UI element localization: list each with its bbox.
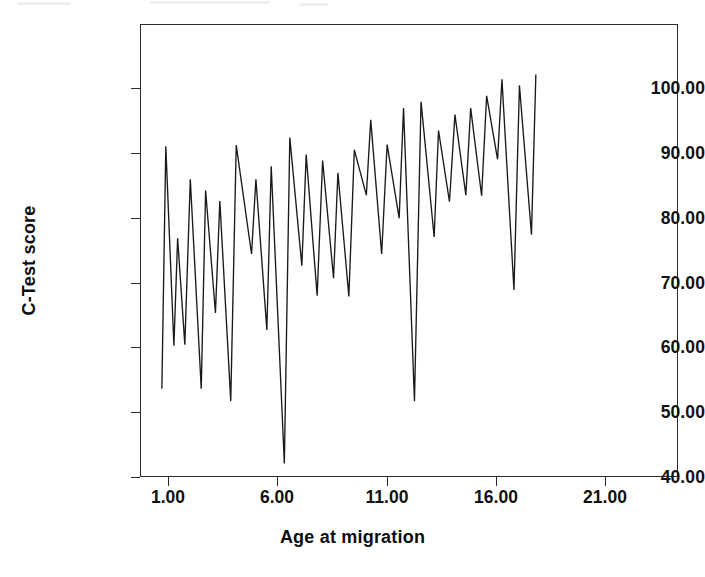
x-tick-mark — [387, 477, 388, 486]
x-tick-label: 1.00 — [151, 487, 185, 508]
y-tick-mark — [131, 283, 140, 284]
x-tick-label: 16.00 — [474, 487, 518, 508]
y-tick-label: 60.00 — [609, 337, 705, 358]
y-tick-label: 40.00 — [609, 467, 705, 488]
y-tick-label: 100.00 — [609, 78, 705, 99]
scan-speckle — [18, 2, 70, 5]
y-tick-mark — [131, 347, 140, 348]
x-tick-mark — [168, 477, 169, 486]
y-tick-label: 80.00 — [609, 208, 705, 229]
y-tick-label: 50.00 — [609, 402, 705, 423]
x-tick-mark — [496, 477, 497, 486]
y-tick-label: 70.00 — [609, 273, 705, 294]
y-tick-mark — [131, 218, 140, 219]
y-tick-label: 90.00 — [609, 143, 705, 164]
x-axis-title: Age at migration — [0, 527, 705, 548]
x-tick-label: 21.00 — [583, 487, 627, 508]
scan-speckle — [150, 1, 270, 4]
y-tick-mark — [131, 88, 140, 89]
y-axis-title: C-Test score — [19, 161, 40, 361]
chart-figure: 100.00 90.00 80.00 70.00 60.00 50.00 40.… — [0, 0, 705, 577]
y-tick-mark — [131, 477, 140, 478]
data-series-line — [140, 24, 678, 477]
scan-speckle — [300, 3, 328, 6]
y-axis-title-wrapper: C-Test score — [10, 0, 11, 1]
x-tick-mark — [605, 477, 606, 486]
y-tick-mark — [131, 153, 140, 154]
x-tick-mark — [277, 477, 278, 486]
y-tick-mark — [131, 412, 140, 413]
x-tick-label: 11.00 — [366, 487, 409, 508]
x-tick-label: 6.00 — [260, 487, 294, 508]
